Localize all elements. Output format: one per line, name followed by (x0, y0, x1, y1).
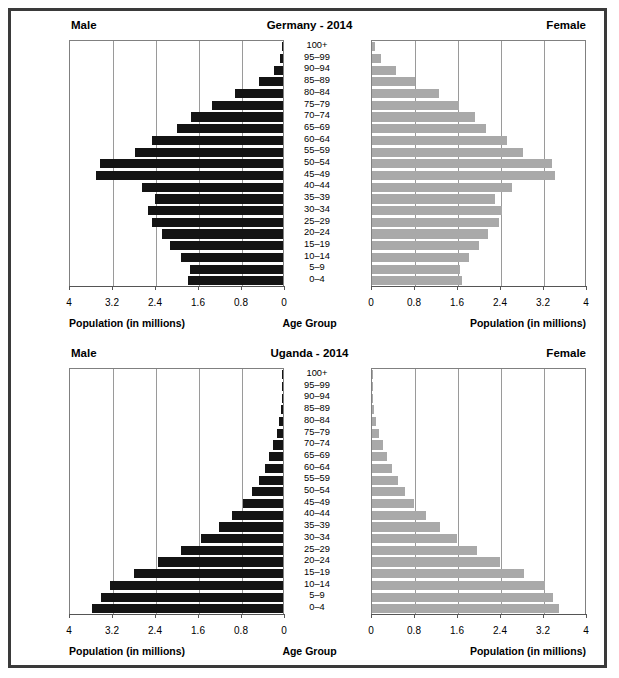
bar-row (70, 404, 283, 416)
female-bar (372, 194, 495, 203)
male-bar (155, 194, 283, 203)
bar-row (70, 252, 283, 264)
male-bar (219, 522, 284, 531)
bar-row (70, 463, 283, 475)
bar-row (70, 170, 283, 182)
bar-row (70, 228, 283, 240)
x-tick-label: 2.4 (148, 625, 162, 636)
bar-row (70, 263, 283, 275)
chart-header-uganda: Male Uganda - 2014 Female (23, 345, 596, 367)
female-bar (372, 440, 383, 449)
x-tick-labels-uganda: 43.22.41.60.8000.81.62.43.24 (23, 624, 596, 640)
male-bar (181, 253, 283, 262)
male-bar (110, 581, 283, 590)
axis-tick (241, 286, 242, 290)
x-tick-label: 0 (368, 297, 374, 308)
male-bar (135, 148, 283, 157)
axis-line-male-uganda (69, 614, 284, 615)
bar-row (70, 451, 283, 463)
age-group-label: 10–14 (284, 579, 350, 591)
x-tick-label: 3.2 (536, 297, 550, 308)
bar-row (372, 533, 585, 545)
legend-female-label-germany: Female (546, 19, 586, 31)
bar-row (70, 100, 283, 112)
bar-row (70, 381, 283, 393)
axis-tick (69, 614, 70, 618)
age-group-label: 70–74 (284, 110, 350, 122)
bar-row (372, 509, 585, 521)
x-tick-label: 3.2 (536, 625, 550, 636)
plot-area-uganda: 100+95–9990–9485–8980–8475–7970–7465–696… (23, 368, 596, 614)
bar-row (70, 123, 283, 135)
x-tick-label: 2.4 (493, 297, 507, 308)
bar-row (372, 439, 585, 451)
female-bar (372, 183, 512, 192)
female-bar (372, 89, 439, 98)
bar-row (70, 439, 283, 451)
bar-row (372, 64, 585, 76)
legend-female-label-uganda: Female (546, 347, 586, 359)
bar-row (372, 591, 585, 603)
male-panel-uganda (69, 368, 284, 614)
age-group-label: 30–34 (284, 204, 350, 216)
female-bar (372, 604, 559, 613)
axis-captions-uganda: Population (in millions) Age Group Popul… (23, 640, 596, 662)
bar-row (70, 416, 283, 428)
age-group-label: 50–54 (284, 157, 350, 169)
axis-tick (198, 286, 199, 290)
x-tick-label: 0 (281, 625, 287, 636)
age-group-axis-uganda: 100+95–9990–9485–8980–8475–7970–7465–696… (284, 368, 350, 614)
male-bar (279, 417, 283, 426)
female-panel-uganda (371, 368, 586, 614)
bar-row (372, 193, 585, 205)
x-tick-label: 4 (583, 625, 589, 636)
female-bar (372, 253, 469, 262)
age-group-label: 50–54 (284, 485, 350, 497)
axis-tick (500, 614, 501, 618)
bar-row (70, 591, 283, 603)
male-bar (191, 112, 283, 121)
bar-row (372, 252, 585, 264)
age-group-axis-germany: 100+95–9990–9485–8980–8475–7970–7465–696… (284, 40, 350, 286)
bar-row (372, 111, 585, 123)
bar-row (372, 228, 585, 240)
bar-row (372, 568, 585, 580)
age-group-label: 85–89 (284, 75, 350, 87)
axis-tick (457, 286, 458, 290)
female-bar (372, 171, 555, 180)
bar-row (70, 556, 283, 568)
female-bar (372, 206, 502, 215)
male-bar (188, 276, 283, 285)
female-bar (372, 101, 459, 110)
female-bar (372, 569, 524, 578)
male-bar (142, 183, 283, 192)
bar-row (70, 498, 283, 510)
male-bar (282, 382, 283, 391)
axis-line-female-germany (371, 286, 586, 287)
bar-row (372, 263, 585, 275)
axis-tick (414, 614, 415, 618)
plot-area-germany: 100+95–9990–9485–8980–8475–7970–7465–696… (23, 40, 596, 286)
uganda-female-bar-rows (372, 369, 585, 614)
age-group-label: 60–64 (284, 134, 350, 146)
age-group-label: 70–74 (284, 438, 350, 450)
age-group-label: 20–24 (284, 555, 350, 567)
age-group-label: 5–9 (284, 262, 350, 274)
male-bar (281, 405, 283, 414)
male-bar (162, 229, 283, 238)
age-group-label: 35–39 (284, 520, 350, 532)
male-bar (259, 476, 283, 485)
axis-tick (500, 286, 501, 290)
bar-row (70, 205, 283, 217)
germany-male-bar-rows (70, 41, 283, 286)
female-bar (372, 276, 462, 285)
axis-tick (371, 614, 372, 618)
bar-row (70, 135, 283, 147)
axis-tick (586, 286, 587, 290)
bar-row (372, 41, 585, 53)
x-tick-label: 1.6 (191, 625, 205, 636)
axis-tick (155, 614, 156, 618)
x-tick-label: 1.6 (450, 625, 464, 636)
bar-row (372, 369, 585, 381)
bar-row (70, 275, 283, 286)
